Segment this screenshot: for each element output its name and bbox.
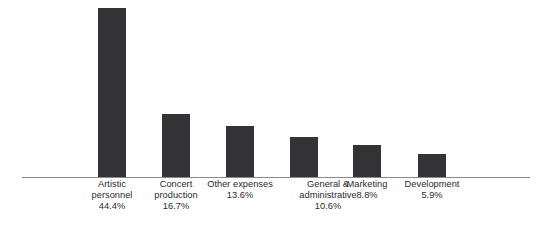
category-label-6: Development5.9% <box>394 179 470 201</box>
category-labels: Artisticpersonnel44.4%Concertproduction1… <box>0 179 544 230</box>
bar-rect <box>290 137 318 177</box>
bar-rect <box>418 154 446 177</box>
category-value-text: 10.6% <box>284 201 372 212</box>
bar-3 <box>226 126 254 177</box>
bar-rect <box>98 8 126 177</box>
bar-6 <box>418 154 446 177</box>
bar-rect <box>353 145 381 177</box>
x-axis-baseline <box>22 177 530 178</box>
category-label-5: Marketing8.8% <box>333 179 401 201</box>
bar-5 <box>353 145 381 177</box>
bar-chart: Artisticpersonnel44.4%Concertproduction1… <box>0 0 544 230</box>
bar-rect <box>226 126 254 177</box>
category-value-text: 5.9% <box>394 190 470 201</box>
category-name-text: Marketing <box>333 179 401 190</box>
bar-4 <box>290 137 318 177</box>
category-name-text: Other expenses <box>196 179 284 190</box>
plot-area <box>0 0 544 177</box>
bar-2 <box>162 114 190 177</box>
category-value-text: 8.8% <box>333 190 401 201</box>
category-name-text: Development <box>394 179 470 190</box>
category-value-text: 16.7% <box>138 201 214 212</box>
category-value-text: 13.6% <box>196 190 284 201</box>
category-label-3: Other expenses13.6% <box>196 179 284 201</box>
bar-rect <box>162 114 190 177</box>
bar-1 <box>98 8 126 177</box>
